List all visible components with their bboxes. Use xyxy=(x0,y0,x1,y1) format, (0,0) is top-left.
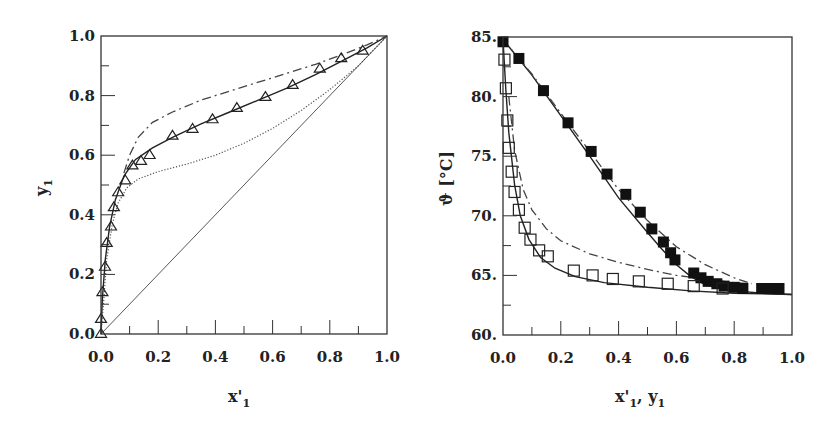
left-x-axis-title: x'1 xyxy=(228,387,250,410)
y-tick-label: 0.4 xyxy=(69,206,95,224)
x-tick-label: 0.8 xyxy=(317,348,343,366)
data-point-filled-square xyxy=(620,189,631,200)
data-point-filled-square xyxy=(658,237,669,248)
data-point-filled-square xyxy=(586,146,597,157)
x-tick-label: 0.4 xyxy=(606,349,632,367)
data-point-open-square xyxy=(506,166,517,177)
y-tick-label: 0.2 xyxy=(69,265,95,283)
series-line xyxy=(503,39,792,294)
y-tick-label: 80. xyxy=(471,88,497,106)
series-line xyxy=(503,39,752,283)
data-point-filled-square xyxy=(513,53,524,64)
right-x-axis-title: x'1, y1 xyxy=(615,387,665,410)
data-point-filled-square xyxy=(563,117,574,128)
data-point-triangle xyxy=(144,150,155,159)
x-tick-label: 0.4 xyxy=(202,348,228,366)
right-plot-frame xyxy=(503,37,792,335)
y-tick-label: 0.8 xyxy=(69,87,95,105)
y-tick-label: 85. xyxy=(471,28,497,46)
data-point-filled-square xyxy=(635,207,646,218)
data-point-open-square xyxy=(633,276,644,287)
left-plot-series xyxy=(96,36,388,337)
y-tick-label: 60. xyxy=(471,326,497,344)
data-point-filled-square xyxy=(602,169,613,180)
data-point-filled-square xyxy=(737,283,748,294)
x-tick-label: 0.8 xyxy=(721,349,747,367)
x-tick-label: 0.0 xyxy=(490,349,516,367)
x-tick-label: 0.6 xyxy=(260,348,286,366)
x-tick-label: 0.2 xyxy=(548,349,574,367)
x-tick-label: 0.6 xyxy=(663,349,689,367)
data-point-filled-square xyxy=(538,85,549,96)
data-point-open-square xyxy=(662,278,673,289)
xy-equilibrium-chart: 0.00.20.40.60.81.00.00.20.40.60.81.0 y1 … xyxy=(32,27,400,410)
x-tick-label: 1.0 xyxy=(374,348,400,366)
x-tick-label: 1.0 xyxy=(779,349,805,367)
series-line xyxy=(124,36,387,173)
series-line xyxy=(503,39,792,294)
temperature-composition-chart: 0.00.20.40.60.81.060.65.70.75.80.85. ϑ [… xyxy=(437,28,805,410)
data-point-open-square xyxy=(525,234,536,245)
left-y-axis-title: y1 xyxy=(32,179,55,197)
y-tick-label: 1.0 xyxy=(69,27,95,45)
figure: 0.00.20.40.60.81.00.00.20.40.60.81.0 y1 … xyxy=(0,0,831,429)
y-tick-label: 70. xyxy=(471,207,497,225)
right-y-axis-title: ϑ [°C] xyxy=(437,151,456,206)
data-point-filled-square xyxy=(646,223,657,234)
data-point-triangle xyxy=(336,53,347,62)
x-tick-label: 0.2 xyxy=(145,348,171,366)
y-tick-label: 75. xyxy=(471,147,497,165)
y-tick-label: 0.0 xyxy=(69,325,95,343)
y-tick-label: 65. xyxy=(471,266,497,284)
right-axis-ticks: 0.00.20.40.60.81.060.65.70.75.80.85. xyxy=(471,28,805,367)
data-point-open-square xyxy=(503,142,514,153)
series-line xyxy=(101,36,387,334)
x-tick-label: 0.0 xyxy=(88,348,114,366)
y-tick-label: 0.6 xyxy=(69,146,95,164)
data-point-filled-square xyxy=(669,254,680,265)
data-point-filled-square xyxy=(773,283,784,294)
right-plot-series xyxy=(498,36,793,294)
